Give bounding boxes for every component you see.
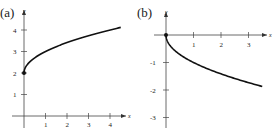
y-tick-neg1: -1 — [150, 59, 156, 67]
figure: (a) y x 1 2 3 4 1 2 3 4 (b) — [0, 0, 273, 136]
start-point-a — [22, 71, 26, 75]
y-axis-label: y — [164, 9, 168, 15]
y-tick-3: 3 — [13, 48, 17, 56]
panel-a-label: (a) — [0, 5, 14, 20]
x-tick-1: 1 — [44, 121, 48, 129]
y-tick-2: 2 — [13, 70, 17, 78]
x-axis-label: x — [127, 113, 131, 119]
start-point-b — [164, 33, 168, 37]
y-tick-neg3: -3 — [150, 114, 156, 122]
x-tick-2: 2 — [220, 41, 224, 49]
x-tick-3: 3 — [247, 41, 251, 49]
x-tick-4: 4 — [109, 121, 113, 129]
x-axis-label: x — [268, 32, 272, 38]
curve-a — [24, 27, 121, 73]
panel-a: (a) y x 1 2 3 4 1 2 3 4 — [0, 5, 131, 129]
y-tick-1: 1 — [13, 91, 17, 99]
x-tick-2: 2 — [66, 121, 70, 129]
panel-b-label: (b) — [137, 5, 152, 20]
y-tick-4: 4 — [13, 27, 17, 35]
panel-b: (b) y x 1 2 3 -1 -2 -3 — [137, 5, 272, 128]
y-axis-label: y — [22, 8, 26, 14]
x-tick-3: 3 — [87, 121, 91, 129]
y-tick-neg2: -2 — [150, 87, 156, 95]
x-tick-1: 1 — [192, 41, 196, 49]
